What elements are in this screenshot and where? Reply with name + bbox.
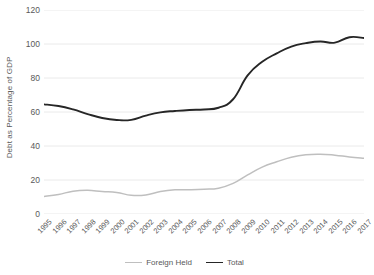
y-tick-label: 40 xyxy=(14,142,40,151)
legend-item[interactable]: Foreign Held xyxy=(125,258,192,267)
legend-label: Foreign Held xyxy=(146,258,192,267)
y-tick-label: 60 xyxy=(14,108,40,117)
legend-swatch-icon xyxy=(206,262,223,263)
chart-legend: Foreign HeldTotal xyxy=(0,254,369,270)
y-tick-label: 20 xyxy=(14,176,40,185)
x-axis-tick-labels: 1995199619971998199920002001200220032004… xyxy=(0,216,369,258)
series-line-foreign-held xyxy=(44,154,364,196)
gridlines xyxy=(44,10,364,214)
series-line-total xyxy=(44,37,364,121)
y-tick-label: 120 xyxy=(14,6,40,15)
plot-svg xyxy=(44,10,364,214)
y-tick-label: 80 xyxy=(14,74,40,83)
legend-item[interactable]: Total xyxy=(206,258,244,267)
legend-label: Total xyxy=(227,258,244,267)
legend-swatch-icon xyxy=(125,262,142,263)
plot-area xyxy=(44,10,364,214)
y-tick-label: 100 xyxy=(14,40,40,49)
